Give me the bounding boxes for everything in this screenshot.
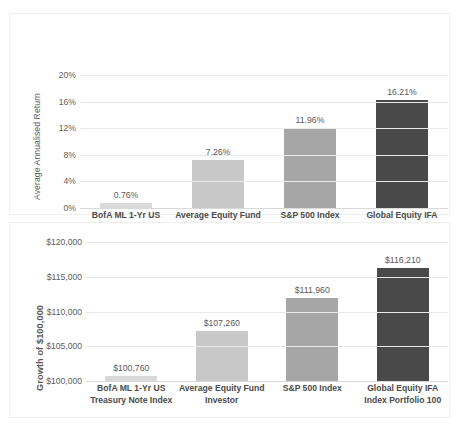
x-axis-category-line: S&P 500 Index xyxy=(264,210,356,222)
y-axis-ticks-top: 0%4%8%12%16%20% xyxy=(40,14,78,214)
x-axis-category-label: Global Equity IFAIndex Portfolio 100 xyxy=(358,383,449,406)
bar-value-label: $111,960 xyxy=(295,285,330,295)
bar-slot: 11.96% xyxy=(264,75,356,208)
bar-value-label: $116,210 xyxy=(385,255,421,265)
bar[interactable] xyxy=(286,298,338,381)
bar-slot: 16.21% xyxy=(356,75,448,208)
y-axis-ticks-bottom: $100,000$105,000$110,000$115,000$120,000 xyxy=(22,223,84,417)
x-axis-category-line: S&P 500 Index xyxy=(267,383,358,395)
gridline xyxy=(80,155,448,156)
chart-panel-annualised-return: Average Annualised Return 0%4%8%12%16%20… xyxy=(9,13,450,215)
y-axis-tick-text: 8% xyxy=(64,151,76,160)
gridline xyxy=(80,75,448,76)
bar-value-label: $107,260 xyxy=(204,318,240,328)
plot-area-top: Average Annualised Return 0%4%8%12%16%20… xyxy=(10,14,449,214)
y-axis-tick-text: 20% xyxy=(59,71,76,80)
bar[interactable] xyxy=(192,160,244,208)
gridline xyxy=(86,346,448,347)
x-axis-category-line: Treasury Note Index xyxy=(86,395,177,407)
x-axis-category-line: Global Equity IFA xyxy=(358,383,449,395)
y-axis-tick-text: $110,000 xyxy=(47,307,82,316)
gridline xyxy=(80,128,448,129)
x-axis-category-label: Average Equity FundInvestor xyxy=(177,383,268,406)
x-axis-category-line: BofA ML 1-Yr US xyxy=(80,210,172,222)
x-axis-category-line: Index Portfolio 100 xyxy=(358,395,449,407)
gridline xyxy=(86,381,448,382)
bar-value-label: 11.96% xyxy=(296,115,325,125)
bar-slot: 0.76% xyxy=(80,75,172,208)
gridline xyxy=(80,102,448,103)
bar-value-label: 16.21% xyxy=(387,87,416,97)
y-axis-tick-text: 16% xyxy=(59,97,76,106)
gridline xyxy=(86,312,448,313)
bar-slot: 7.26% xyxy=(172,75,264,208)
x-axis-category-line: Global Equity IFA xyxy=(356,210,448,222)
bar[interactable] xyxy=(196,331,248,381)
x-axis-category-line: Investor xyxy=(177,395,268,407)
bar[interactable] xyxy=(377,268,429,381)
y-axis-tick-text: $120,000 xyxy=(46,238,82,247)
x-axis-category-label: S&P 500 Index xyxy=(267,383,358,395)
gridline xyxy=(86,277,448,278)
y-axis-tick-text: 4% xyxy=(64,177,76,186)
y-axis-tick-text: 0% xyxy=(64,204,76,213)
gridline xyxy=(80,181,448,182)
chart-page: Average Annualised Return 0%4%8%12%16%20… xyxy=(0,0,459,432)
y-axis-tick-text: 12% xyxy=(59,124,76,133)
plot-area-bottom: Growth of $100,000 $100,000$105,000$110,… xyxy=(10,223,449,417)
y-axis-tick-text: $100,000 xyxy=(46,377,82,386)
x-axis-categories-bottom: BofA ML 1-Yr USTreasury Note IndexAverag… xyxy=(86,383,448,413)
bar-value-label: 0.76% xyxy=(114,190,139,200)
grid-bottom: $100,760$107,260$111,960$116,210 xyxy=(86,242,448,381)
y-axis-tick-text: $105,000 xyxy=(46,342,82,351)
bar[interactable] xyxy=(284,128,336,208)
grid-top: 0.76%7.26%11.96%16.21% xyxy=(80,75,448,208)
bar-value-label: $100,760 xyxy=(113,363,149,373)
x-axis-category-line: BofA ML 1-Yr US xyxy=(86,383,177,395)
x-axis-category-line: Average Equity Fund xyxy=(172,210,264,222)
x-axis-category-label: BofA ML 1-Yr USTreasury Note Index xyxy=(86,383,177,406)
y-axis-tick-text: $115,000 xyxy=(47,272,82,281)
gridline xyxy=(86,242,448,243)
gridline xyxy=(80,208,448,209)
x-axis-category-label: S&P 500 Index xyxy=(264,210,356,222)
x-axis-category-line: Average Equity Fund xyxy=(177,383,268,395)
chart-panel-growth-of-100000: Growth of $100,000 $100,000$105,000$110,… xyxy=(9,222,450,418)
bar-series-top: 0.76%7.26%11.96%16.21% xyxy=(80,75,448,208)
